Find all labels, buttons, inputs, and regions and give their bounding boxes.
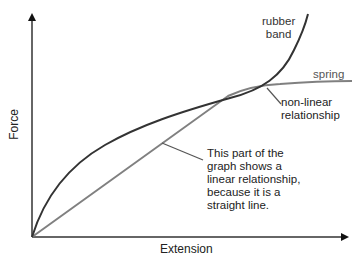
linear-note: This part of the graph shows a linear re… [207, 147, 357, 212]
y-axis-label: Force [8, 103, 21, 147]
rubber-band-label-line-1: rubber [262, 15, 295, 28]
linear-note-line-3: linear relationship, [207, 173, 357, 186]
non-linear-leader [267, 88, 281, 104]
rubber-band-label: rubber band [262, 15, 295, 41]
linear-note-line-4: because it is a [207, 186, 357, 199]
non-linear-label: non-linear relationship [281, 96, 340, 122]
linear-leader [162, 143, 203, 160]
x-axis-arrow-icon [341, 233, 349, 241]
chart-canvas [0, 0, 364, 266]
linear-note-line-2: graph shows a [207, 160, 357, 173]
rubber-band-label-line-2: band [262, 28, 295, 41]
non-linear-label-line-2: relationship [281, 109, 340, 122]
non-linear-label-line-1: non-linear [281, 96, 340, 109]
x-axis-label: Extension [160, 243, 213, 256]
linear-note-line-1: This part of the [207, 147, 357, 160]
y-axis-arrow-icon [28, 13, 36, 21]
linear-note-line-5: straight line. [207, 199, 357, 212]
spring-label: spring [313, 68, 344, 81]
